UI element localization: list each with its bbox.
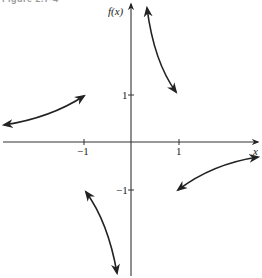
y-tick-label-pos1: 1 — [122, 90, 128, 101]
curve-upper-left — [4, 96, 84, 125]
x-axis-label: x — [253, 146, 258, 157]
y-axis-label: f(x) — [108, 6, 123, 17]
curve-upper-right — [147, 8, 176, 92]
curve-lower-right — [178, 157, 258, 190]
x-tick-label-pos1: 1 — [176, 146, 182, 157]
function-graph — [0, 0, 262, 278]
curve-lower-left — [86, 192, 117, 273]
x-tick-label-neg1: −1 — [77, 146, 89, 157]
y-tick-label-neg1: −1 — [116, 185, 128, 196]
